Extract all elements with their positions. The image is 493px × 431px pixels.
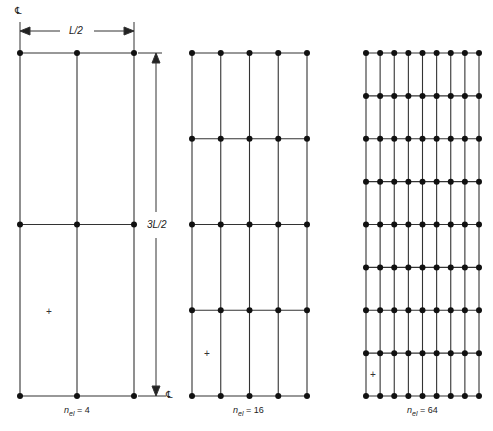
width-dimension-label: L/2 (69, 25, 83, 36)
mesh-16: + (189, 50, 310, 399)
mesh-node-icon (476, 136, 482, 142)
height-dimension-label: 3L/2 (146, 219, 167, 230)
mesh-node-icon (377, 393, 383, 399)
mesh-node-icon (17, 222, 23, 228)
mesh-node-icon (304, 307, 310, 313)
mesh-node-icon (131, 222, 137, 228)
mesh-node-icon (420, 136, 426, 142)
mesh-node-icon (405, 393, 411, 399)
mesh-node-icon (476, 179, 482, 185)
mesh-node-icon (420, 179, 426, 185)
mesh-node-icon (462, 93, 468, 99)
arrowhead-down-icon (152, 386, 160, 396)
mesh-node-icon (448, 222, 454, 228)
meshes: +++ (17, 50, 482, 399)
mesh-node-icon (275, 307, 281, 313)
mesh-node-icon (247, 222, 253, 228)
mesh-node-icon (131, 50, 137, 56)
mesh-node-icon (434, 179, 440, 185)
mesh-4: + (17, 50, 137, 399)
caption-value: = 64 (417, 405, 437, 415)
mesh-node-icon (74, 393, 80, 399)
mesh-node-icon (420, 307, 426, 313)
mesh-node-icon (377, 50, 383, 56)
mesh-node-icon (405, 50, 411, 56)
mesh-node-icon (377, 93, 383, 99)
mesh-node-icon (462, 393, 468, 399)
mesh-64: + (363, 50, 482, 399)
mesh-node-icon (462, 50, 468, 56)
mesh-node-icon (462, 136, 468, 142)
mesh-node-icon (189, 50, 195, 56)
mesh-node-icon (363, 222, 369, 228)
mesh-node-icon (405, 264, 411, 270)
mesh-node-icon (363, 264, 369, 270)
mesh-node-icon (275, 50, 281, 56)
mesh-node-icon (391, 222, 397, 228)
mesh-node-icon (304, 393, 310, 399)
mesh-node-icon (434, 393, 440, 399)
mesh-node-icon (377, 179, 383, 185)
mesh-node-icon (363, 93, 369, 99)
mesh-node-icon (74, 222, 80, 228)
mesh-node-icon (363, 393, 369, 399)
mesh-node-icon (363, 50, 369, 56)
plus-marker-icon: + (204, 348, 210, 359)
mesh-node-icon (377, 264, 383, 270)
mesh-node-icon (189, 307, 195, 313)
mesh-node-icon (304, 136, 310, 142)
mesh-node-icon (420, 264, 426, 270)
mesh-node-icon (462, 179, 468, 185)
mesh-node-icon (391, 93, 397, 99)
mesh-node-icon (363, 307, 369, 313)
mesh-node-icon (476, 222, 482, 228)
mesh-node-icon (391, 350, 397, 356)
mesh-node-icon (420, 350, 426, 356)
arrowhead-up-icon (152, 53, 160, 63)
mesh-node-icon (405, 179, 411, 185)
dimension-lines (20, 22, 166, 396)
caption-value: = 4 (74, 405, 89, 415)
mesh-node-icon (462, 307, 468, 313)
mesh-node-icon (448, 307, 454, 313)
mesh-node-icon (448, 93, 454, 99)
mesh-node-icon (218, 136, 224, 142)
arrowhead-left-icon (20, 27, 30, 35)
caption-mesh-4: nel = 4 (64, 405, 90, 417)
mesh-node-icon (391, 307, 397, 313)
mesh-node-icon (476, 50, 482, 56)
caption-mesh-64: nel = 64 (407, 405, 438, 417)
mesh-node-icon (304, 222, 310, 228)
mesh-node-icon (434, 350, 440, 356)
mesh-node-icon (462, 222, 468, 228)
mesh-node-icon (189, 393, 195, 399)
mesh-node-icon (434, 136, 440, 142)
mesh-node-icon (275, 222, 281, 228)
mesh-node-icon (434, 93, 440, 99)
mesh-node-icon (434, 264, 440, 270)
mesh-node-icon (17, 50, 23, 56)
mesh-node-icon (363, 350, 369, 356)
mesh-node-icon (420, 393, 426, 399)
mesh-node-icon (377, 222, 383, 228)
mesh-node-icon (363, 179, 369, 185)
mesh-node-icon (405, 93, 411, 99)
mesh-node-icon (476, 93, 482, 99)
mesh-node-icon (434, 50, 440, 56)
mesh-node-icon (391, 136, 397, 142)
mesh-node-icon (405, 350, 411, 356)
mesh-node-icon (420, 50, 426, 56)
mesh-node-icon (377, 307, 383, 313)
mesh-node-icon (391, 179, 397, 185)
arrowhead-right-icon (124, 27, 134, 35)
mesh-node-icon (476, 307, 482, 313)
mesh-node-icon (405, 307, 411, 313)
mesh-node-icon (247, 50, 253, 56)
mesh-node-icon (189, 222, 195, 228)
mesh-node-icon (189, 136, 195, 142)
mesh-node-icon (247, 136, 253, 142)
mesh-node-icon (448, 50, 454, 56)
plus-marker-icon: + (46, 306, 52, 317)
mesh-node-icon (420, 93, 426, 99)
plus-marker-icon: + (370, 369, 376, 380)
